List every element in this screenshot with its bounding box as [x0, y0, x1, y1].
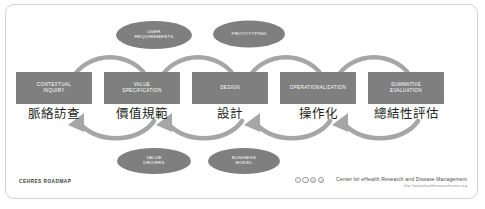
phase-label-2: DESIGN [220, 85, 240, 91]
footer-credit-organization: Center for eHealth Research and Disease … [336, 176, 467, 182]
cc-sa-icon: ⓐ [318, 177, 324, 183]
phase-box-value-specification[interactable]: VALUE SPECIFICATION [104, 72, 180, 104]
cc-nc-icon: Ⓢ [310, 177, 316, 183]
ellipse-label-user-requirements: USER REQUIREMENTS [116, 29, 192, 40]
cc-icon: ⓒ [295, 177, 301, 183]
roadmap-frame: FORMATIVE EVALUATION FORMATIVE EVALUATIO… [5, 4, 478, 199]
phase-cn-label-1: 價值規範 [104, 107, 180, 120]
footer-credit: Center for eHealth Research and Disease … [336, 176, 467, 188]
phase-box-contextual-inquiry[interactable]: CONTEXTUAL INQUIRY [16, 72, 92, 104]
phase-label-0: CONTEXTUAL INQUIRY [37, 82, 71, 95]
footer-credit-url[interactable]: http://www.ehealthresearchcenter.org [336, 184, 467, 188]
footer-roadmap-label: CEHRES ROADMAP [19, 179, 71, 184]
ellipse-label-business-model: BUSINESS MODEL [208, 155, 280, 166]
phase-cn-label-2: 設計 [192, 107, 268, 120]
phase-box-summative-evaluation[interactable]: SUMMATIVE EVALUATION [368, 72, 444, 104]
phase-cn-label-4: 總結性評估 [364, 107, 448, 120]
ellipse-label-value-drivers: VALUE DRIVERS [116, 155, 192, 166]
phase-box-design[interactable]: DESIGN [192, 72, 268, 104]
creative-commons-badges: ⓒ ⓘ Ⓢ ⓐ [295, 177, 324, 183]
phase-box-operationalization[interactable]: OPERATIONALIZATION [280, 72, 356, 104]
phase-cn-label-3: 操作化 [280, 107, 356, 120]
cc-by-icon: ⓘ [302, 177, 308, 183]
phase-cn-label-0: 脈絡訪查 [16, 107, 92, 120]
phase-label-3: OPERATIONALIZATION [290, 85, 346, 91]
phase-label-4: SUMMATIVE EVALUATION [390, 82, 422, 95]
ellipse-label-prototyping: PROTOTYPING [213, 31, 285, 36]
phase-label-1: VALUE SPECIFICATION [122, 82, 161, 95]
